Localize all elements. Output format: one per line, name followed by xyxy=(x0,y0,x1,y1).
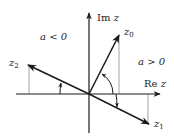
z0-label: z0 xyxy=(123,26,134,39)
z1-label: z1 xyxy=(153,118,164,131)
z2-vector xyxy=(28,65,89,94)
z1-vector xyxy=(89,94,149,124)
region-right-label: a > 0 xyxy=(138,56,166,67)
z0-vector xyxy=(89,35,119,94)
angle-arc-z2-icon xyxy=(60,83,61,94)
real-axis-label: Re z xyxy=(144,78,167,89)
region-left-label: a < 0 xyxy=(40,31,68,42)
z2-label: z2 xyxy=(8,57,19,70)
complex-plane-diagram: Im z Re z a < 0 a > 0 z0 z1 z2 xyxy=(0,0,174,140)
angle-arc-z1-icon xyxy=(116,94,117,107)
angle-arc-z0-icon xyxy=(102,74,113,94)
imag-axis-label: Im z xyxy=(97,12,120,23)
